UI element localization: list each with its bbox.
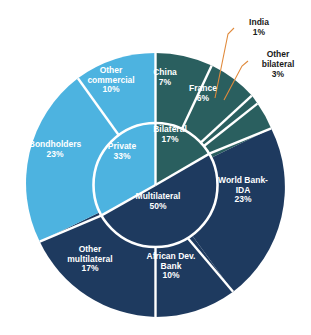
pie-chart: Other commercial 10% China 7% France 6% … [0,0,311,335]
label-other-bilateral: Other bilateral 3% [250,50,306,79]
label-india: India 1% [236,18,282,38]
